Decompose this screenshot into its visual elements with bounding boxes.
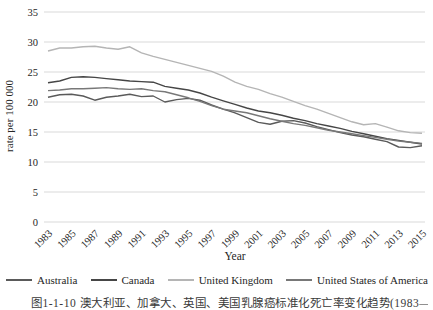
legend-item-united-states-of-america: United States of America [286,274,428,286]
x-tick-label-1985: 1985 [55,228,78,251]
x-tick-label-2003: 2003 [266,228,289,251]
x-tick-label-2005: 2005 [289,228,312,251]
y-tick-label-35: 35 [28,7,39,18]
legend-line-swatch-australia [6,279,32,281]
y-tick-label-20: 20 [28,97,39,108]
legend-item-united-kingdom: United Kingdom [168,274,273,286]
legend-label: Australia [37,274,77,286]
x-tick-label-2011: 2011 [359,228,381,250]
y-tick-label-0: 0 [33,217,38,228]
y-tick-label-15: 15 [28,127,39,138]
y-tick-label-30: 30 [28,37,39,48]
x-tick-label-2001: 2001 [242,228,265,251]
x-tick-label-1987: 1987 [79,228,102,251]
legend-line-swatch-canada [91,279,117,281]
legend-label: United States of America [317,274,428,286]
x-tick-label-2009: 2009 [336,228,359,251]
x-axis-title: Year [0,250,433,262]
y-tick-label-25: 25 [28,67,39,78]
legend: AustraliaCanadaUnited KingdomUnited Stat… [6,272,428,288]
legend-label: United Kingdom [199,274,273,286]
x-tick-label-2007: 2007 [312,228,335,251]
x-tick-label-1983: 1983 [32,228,55,251]
line-chart: 0510152025303519831985198719891991199319… [0,0,428,270]
x-tick-label-1997: 1997 [195,228,218,251]
x-tick-label-1989: 1989 [102,228,125,251]
legend-line-swatch-united-states-of-america [286,279,312,281]
x-tick-label-1993: 1993 [149,228,172,251]
x-tick-label-1995: 1995 [172,228,195,251]
y-tick-label-5: 5 [33,187,38,198]
x-tick-label-1991: 1991 [125,228,148,251]
x-tick-label-2013: 2013 [382,228,405,251]
legend-label: Canada [122,274,155,286]
x-tick-label-1999: 1999 [219,228,242,251]
x-tick-label-2015: 2015 [406,228,428,251]
legend-item-australia: Australia [6,274,77,286]
y-tick-label-10: 10 [28,157,39,168]
legend-item-canada: Canada [91,274,155,286]
series-line-united-kingdom [48,46,422,133]
series-line-united-states-of-america [48,88,422,144]
legend-line-swatch-united-kingdom [168,279,194,281]
figure-caption: 图1-1-10 澳大利亚、加拿大、英国、美国乳腺癌标准化死亡率变化趋势(1983… [31,294,428,310]
